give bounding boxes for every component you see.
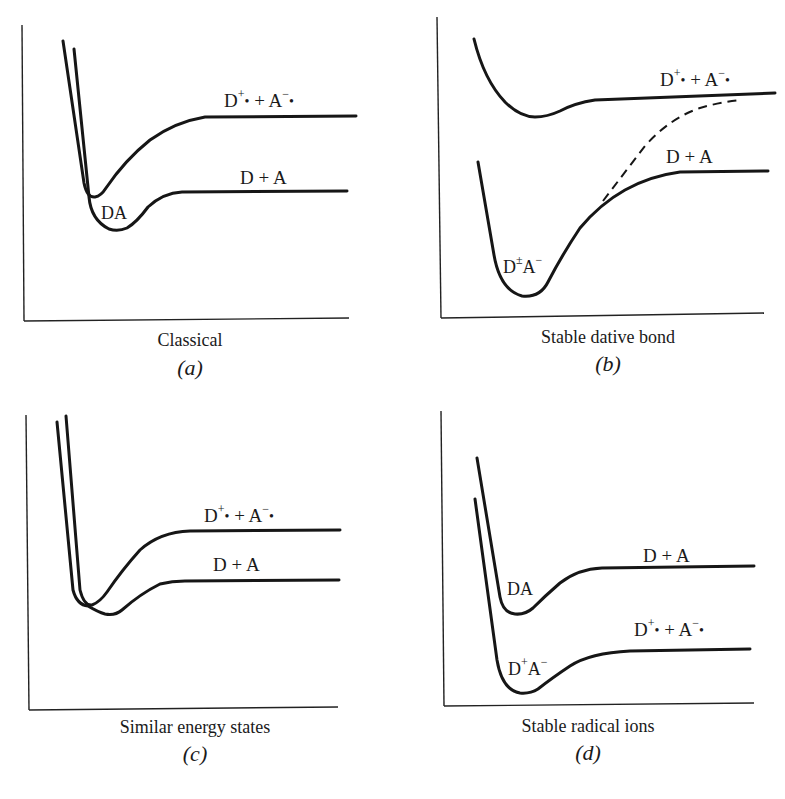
- panel-c-sublabel: (c): [183, 743, 207, 765]
- panel-b-label-ion-pair: D+• + A−•: [660, 70, 730, 89]
- panel-d-caption: Stable radical ions: [522, 717, 655, 735]
- panel-d-plot: [441, 411, 754, 706]
- radical-dot-icon: •: [289, 94, 294, 109]
- radical-dot-icon: •: [269, 509, 274, 524]
- panel-b-label-neutral: D + A: [666, 147, 713, 166]
- panel-b-x-axis: [441, 313, 764, 318]
- panel-d-y-axis: [441, 411, 444, 706]
- panel-c-curve-neutral: [57, 422, 339, 615]
- potential-energy-figure: [0, 0, 785, 799]
- panel-c-plot: [26, 415, 340, 710]
- panel-b-curve-dative: [478, 162, 768, 296]
- panel-d-x-axis: [444, 703, 754, 706]
- radical-dot-icon: •: [655, 623, 660, 638]
- panel-a-label-complex: DA: [101, 204, 127, 222]
- panel-d-label-radical-ions: D+• + A−•: [634, 620, 704, 639]
- panel-d-label-ion-complex: D+A−: [508, 660, 548, 678]
- panel-c-label-ion-pair: D+• + A−•: [204, 506, 274, 525]
- panel-c-x-axis: [29, 707, 338, 710]
- panel-c-y-axis: [26, 415, 29, 710]
- panel-a-y-axis: [22, 25, 24, 321]
- panel-d-sublabel: (d): [575, 742, 601, 764]
- panel-b-label-dative-complex: D±A−: [503, 258, 542, 276]
- panel-b-y-axis: [437, 17, 441, 318]
- panel-a-curve-ion-pair: [63, 41, 356, 197]
- radical-dot-icon: •: [245, 94, 250, 109]
- panel-c-caption: Similar energy states: [120, 718, 271, 736]
- radical-dot-icon: •: [225, 509, 230, 524]
- panel-a-plot: [22, 25, 356, 321]
- panel-a-x-axis: [24, 318, 349, 321]
- panel-d-label-neutral: D + A: [643, 546, 690, 565]
- panel-a-label-neutral: D + A: [240, 168, 287, 187]
- radical-dot-icon: •: [699, 623, 704, 638]
- panel-b-caption: Stable dative bond: [541, 328, 675, 346]
- radical-dot-icon: •: [725, 73, 730, 88]
- panel-a-caption: Classical: [158, 331, 223, 349]
- panel-c-curve-ion-pair: [66, 416, 340, 605]
- panel-c-label-neutral: D + A: [213, 555, 260, 574]
- panel-d-label-complex: DA: [507, 580, 533, 598]
- panel-a-label-ion-pair: D+• + A−•: [224, 91, 294, 110]
- panel-a-sublabel: (a): [177, 357, 203, 379]
- panel-b-sublabel: (b): [595, 353, 621, 375]
- radical-dot-icon: •: [681, 73, 686, 88]
- panel-b-plot: [437, 17, 775, 318]
